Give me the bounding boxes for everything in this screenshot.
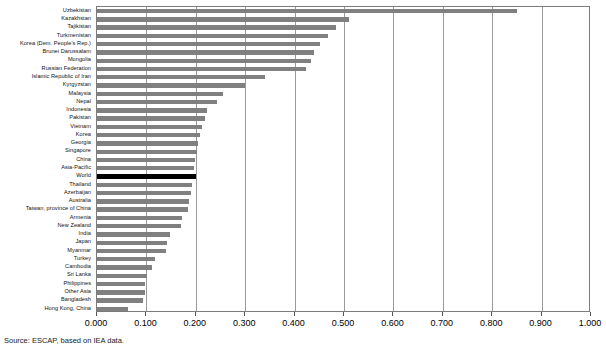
bar-row (97, 290, 591, 294)
bar (97, 100, 217, 104)
category-label: Armenia (70, 214, 91, 220)
tick-mark (343, 312, 344, 316)
category-label: World (76, 172, 91, 178)
tick-mark (392, 312, 393, 316)
category-label: Bangladesh (61, 296, 91, 302)
bar (97, 290, 145, 294)
tick-mark (442, 312, 443, 316)
tick-mark (145, 312, 146, 316)
category-label: Taiwan, province of China (26, 205, 91, 211)
bar-row (97, 150, 591, 154)
bar-row (97, 75, 591, 79)
category-label: China (76, 156, 91, 162)
category-label: Korea (76, 131, 91, 137)
bar (97, 125, 202, 129)
tick-mark (195, 312, 196, 316)
bar-row (97, 158, 591, 162)
bar-row (97, 224, 591, 228)
bar-row (97, 257, 591, 261)
category-label: Russian Federation (42, 65, 91, 71)
category-label: Kazakhstan (61, 15, 91, 21)
bar-row (97, 241, 591, 245)
bar-row (97, 298, 591, 302)
category-label: Kyrgyzstan (63, 81, 91, 87)
tick-mark (294, 312, 295, 316)
bar (97, 298, 143, 302)
category-label: Georgia (71, 139, 91, 145)
bar-row (97, 133, 591, 137)
bar (97, 150, 197, 154)
bar (97, 25, 336, 29)
category-label: Islamic Republic of Iran (32, 73, 91, 79)
category-label: Uzbekistan (63, 7, 91, 13)
category-label: Philippines (63, 280, 91, 286)
bar-highlight (97, 174, 196, 178)
bar-row (97, 67, 591, 71)
category-label: Turkey (74, 255, 91, 261)
bar (97, 133, 200, 137)
category-label: Mongolia (68, 56, 91, 62)
bar-row (97, 166, 591, 170)
category-label: Asia-Pacific (61, 164, 91, 170)
bar-row (97, 108, 591, 112)
x-tick-label: 1.000 (560, 317, 606, 329)
bar-row (97, 191, 591, 195)
bar-row (97, 92, 591, 96)
bar (97, 265, 152, 269)
bar-row (97, 50, 591, 54)
bar (97, 191, 191, 195)
category-label: Thailand (69, 181, 91, 187)
category-label: Indonesia (66, 106, 91, 112)
category-label: Japan (76, 238, 92, 244)
category-label: Australia (69, 197, 91, 203)
bar-row (97, 307, 591, 311)
bar (97, 9, 517, 13)
tick-mark (491, 312, 492, 316)
bar (97, 232, 170, 236)
bar (97, 83, 245, 87)
bar-row (97, 42, 591, 46)
bar-row (97, 83, 591, 87)
bar (97, 108, 207, 112)
bar (97, 17, 349, 21)
bar-row (97, 174, 591, 178)
category-label: Nepal (76, 98, 91, 104)
category-label: Sri Lanka (67, 271, 91, 277)
bar (97, 282, 145, 286)
bar (97, 92, 223, 96)
tick-mark (244, 312, 245, 316)
bar-row (97, 34, 591, 38)
category-label: Pakistan (69, 114, 91, 120)
bar (97, 166, 194, 170)
bar-row (97, 17, 591, 21)
category-label: Vietnam (70, 123, 91, 129)
bar (97, 116, 205, 120)
bar (97, 249, 166, 253)
category-label: Azerbaijan (64, 189, 91, 195)
category-label: Cambodia (65, 263, 91, 269)
category-label: Malaysia (69, 90, 91, 96)
category-label: Brunei Darussalam (43, 48, 91, 54)
category-label: Myanmar (67, 247, 91, 253)
bar-row (97, 207, 591, 211)
bars-container (97, 7, 589, 311)
bar (97, 307, 128, 311)
bar (97, 75, 265, 79)
bar-row (97, 265, 591, 269)
tick-mark (541, 312, 542, 316)
bar-row (97, 216, 591, 220)
bar (97, 50, 314, 54)
category-axis-labels: UzbekistanKazakhstanTajikistanTurkmenist… (0, 6, 94, 312)
bar (97, 216, 182, 220)
bar (97, 59, 311, 63)
category-label: India (79, 230, 91, 236)
tick-mark (590, 312, 591, 316)
bar (97, 199, 189, 203)
bar-row (97, 59, 591, 63)
bar (97, 207, 188, 211)
bar-row (97, 199, 591, 203)
bar (97, 257, 155, 261)
bar (97, 67, 306, 71)
bar (97, 34, 328, 38)
